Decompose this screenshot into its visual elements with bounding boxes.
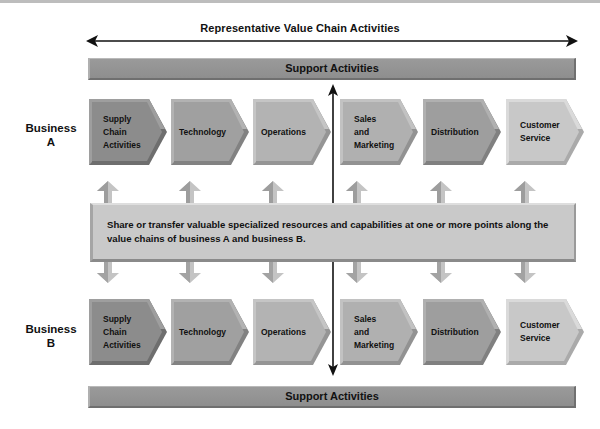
activity-label-line: Marketing	[354, 139, 410, 152]
activity-label: Distribution	[431, 99, 493, 165]
activity-label-line: Sales	[354, 313, 410, 326]
up-arrow-icon	[261, 180, 285, 202]
activity-label: SupplyChainActivities	[103, 299, 159, 365]
business-a-line2: A	[20, 135, 82, 149]
business-a-activity-supply-chain-activities: SupplyChainActivities	[89, 99, 167, 165]
activity-label-line: Distribution	[431, 126, 493, 139]
activity-label-line: Activities	[103, 139, 159, 152]
business-b-label: Business B	[20, 322, 82, 350]
share-transfer-box: Share or transfer valuable specialized r…	[90, 203, 576, 262]
activity-label-line: Technology	[179, 126, 241, 139]
business-b-activity-supply-chain-activities: SupplyChainActivities	[89, 299, 167, 365]
activity-label: Operations	[261, 299, 323, 365]
activity-label-line: Chain	[103, 126, 159, 139]
activity-label-line: and	[354, 326, 410, 339]
business-b-activity-technology: Technology	[171, 299, 249, 365]
up-arrow-icon	[345, 180, 369, 202]
down-arrow-icon	[429, 262, 453, 284]
activity-label: Technology	[179, 299, 241, 365]
activity-label-line: Supply	[103, 113, 159, 126]
activity-label-line: Activities	[103, 339, 159, 352]
business-b-activity-sales-and-marketing: SalesandMarketing	[340, 299, 418, 365]
activity-label: CustomerService	[520, 99, 576, 165]
top-border-strip	[0, 0, 600, 3]
business-a-activity-distribution: Distribution	[423, 99, 501, 165]
double-headed-horizontal-arrow-icon	[86, 34, 578, 48]
up-arrow-icon	[429, 180, 453, 202]
activity-label-line: Service	[520, 132, 576, 145]
activity-label-line: Operations	[261, 326, 323, 339]
activity-label-line: Supply	[103, 313, 159, 326]
business-a-activity-customer-service: CustomerService	[506, 99, 584, 165]
activity-label-line: Technology	[179, 326, 241, 339]
down-arrow-icon	[96, 262, 120, 284]
activity-label: Technology	[179, 99, 241, 165]
business-a-activity-technology: Technology	[171, 99, 249, 165]
activity-label-line: Service	[520, 332, 576, 345]
activity-label-line: Customer	[520, 119, 576, 132]
down-arrow-icon	[513, 262, 537, 284]
up-arrow-icon	[513, 180, 537, 202]
diagram-title: Representative Value Chain Activities	[0, 22, 600, 34]
business-a-activity-sales-and-marketing: SalesandMarketing	[340, 99, 418, 165]
activity-label: Distribution	[431, 299, 493, 365]
business-a-label: Business A	[20, 121, 82, 149]
up-arrow-icon	[178, 180, 202, 202]
business-a-line1: Business	[20, 121, 82, 135]
up-arrow-icon	[96, 180, 120, 202]
activity-label: SupplyChainActivities	[103, 99, 159, 165]
business-b-activity-customer-service: CustomerService	[506, 299, 584, 365]
down-arrow-icon	[178, 262, 202, 284]
activity-label: Operations	[261, 99, 323, 165]
down-arrow-icon	[345, 262, 369, 284]
business-b-line1: Business	[20, 322, 82, 336]
activity-label-line: and	[354, 126, 410, 139]
activity-label: CustomerService	[520, 299, 576, 365]
business-b-activity-operations: Operations	[253, 299, 331, 365]
activity-label-line: Customer	[520, 319, 576, 332]
business-b-activity-distribution: Distribution	[423, 299, 501, 365]
activity-label-line: Distribution	[431, 326, 493, 339]
business-a-activity-operations: Operations	[253, 99, 331, 165]
share-transfer-text: Share or transfer valuable specialized r…	[107, 218, 569, 246]
activity-label: SalesandMarketing	[354, 299, 410, 365]
activity-label-line: Sales	[354, 113, 410, 126]
down-arrow-icon	[261, 262, 285, 284]
activity-label-line: Chain	[103, 326, 159, 339]
support-activities-bar-top: Support Activities	[88, 58, 576, 80]
activity-label-line: Operations	[261, 126, 323, 139]
business-b-line2: B	[20, 336, 82, 350]
activity-label: SalesandMarketing	[354, 99, 410, 165]
activity-label-line: Marketing	[354, 339, 410, 352]
support-activities-bar-bottom: Support Activities	[88, 386, 576, 408]
